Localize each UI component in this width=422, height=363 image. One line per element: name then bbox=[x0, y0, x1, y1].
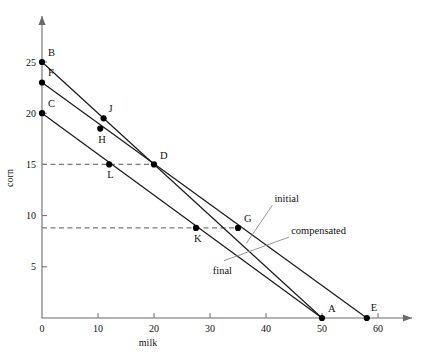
point-label-H: H bbox=[98, 134, 106, 145]
y-tick-label-5: 5 bbox=[31, 261, 36, 272]
data-point-F bbox=[39, 79, 45, 85]
leader-compensated bbox=[224, 237, 289, 261]
point-label-E: E bbox=[371, 302, 377, 313]
y-tick-label-25: 25 bbox=[26, 57, 36, 68]
y-axis-title: corn bbox=[4, 169, 15, 187]
chart-canvas: 0102030405060 510152025 BFCJHDLGKAE init… bbox=[0, 0, 422, 363]
point-label-K: K bbox=[194, 233, 202, 244]
line-final bbox=[42, 113, 322, 318]
point-label-C: C bbox=[48, 98, 55, 109]
data-point-C bbox=[39, 110, 45, 116]
series-group bbox=[42, 62, 367, 318]
x-tick-label-60: 60 bbox=[373, 323, 383, 334]
x-tick-label-0: 0 bbox=[40, 323, 45, 334]
x-tick-label-30: 30 bbox=[205, 323, 215, 334]
guide-lines-group bbox=[42, 164, 238, 227]
data-point-L bbox=[106, 161, 112, 167]
y-tick-label-10: 10 bbox=[26, 210, 36, 221]
point-label-A: A bbox=[328, 303, 336, 314]
data-point-A bbox=[319, 315, 325, 321]
x-axis-arrow-icon bbox=[403, 314, 412, 321]
data-point-G bbox=[235, 225, 241, 231]
x-tick-label-20: 20 bbox=[149, 323, 159, 334]
y-tick-label-20: 20 bbox=[26, 108, 36, 119]
budget-line-chart: 0102030405060 510152025 BFCJHDLGKAE init… bbox=[0, 0, 422, 363]
data-points-group bbox=[39, 59, 370, 321]
y-tick-label-15: 15 bbox=[26, 159, 36, 170]
line-compensated bbox=[42, 82, 367, 318]
data-point-H bbox=[97, 125, 103, 131]
point-label-L: L bbox=[107, 169, 113, 180]
x-tick-label-10: 10 bbox=[93, 323, 103, 334]
point-label-D: D bbox=[160, 150, 168, 161]
data-point-D bbox=[151, 161, 157, 167]
x-tick-label-50: 50 bbox=[317, 323, 327, 334]
curve-label-initial: initial bbox=[274, 193, 299, 204]
data-point-J bbox=[101, 115, 107, 121]
curve-label-final: final bbox=[213, 265, 232, 276]
curve-label-compensated: compensated bbox=[291, 225, 347, 236]
point-label-F: F bbox=[48, 67, 54, 78]
point-label-J: J bbox=[109, 103, 113, 114]
leader-initial bbox=[246, 205, 272, 243]
line-initial bbox=[42, 62, 322, 318]
x-axis-title: milk bbox=[139, 337, 157, 348]
data-point-E bbox=[364, 315, 370, 321]
curve-labels-group: initialcompensatedfinal bbox=[213, 193, 347, 276]
x-tick-label-40: 40 bbox=[261, 323, 271, 334]
y-axis-arrow-icon bbox=[38, 16, 45, 25]
data-point-B bbox=[39, 59, 45, 65]
x-axis-ticks: 0102030405060 bbox=[40, 313, 384, 334]
point-label-B: B bbox=[48, 47, 55, 58]
data-point-K bbox=[193, 225, 199, 231]
curve-label-leaders bbox=[224, 205, 289, 260]
point-label-G: G bbox=[244, 213, 252, 224]
